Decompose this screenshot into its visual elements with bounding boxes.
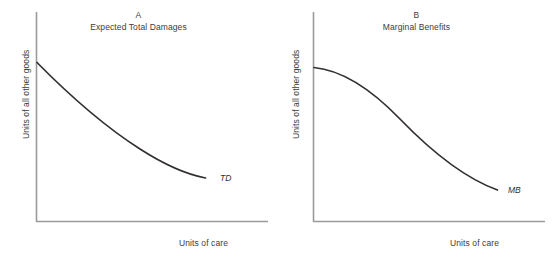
panel-b-plot-area [278,0,555,263]
panel-b-curve-label-mb: MB [508,185,521,195]
panel-a-plot-area [0,0,277,263]
panel-a: A Expected Total Damages Units of all ot… [0,0,277,263]
panel-b-curve-mb [314,68,498,191]
panel-a-curve-td [37,63,206,179]
panel-b: B Marginal Benefits Units of all other g… [278,0,555,263]
panel-a-curve-label-td: TD [220,173,231,183]
figure-two-panel-chart: A Expected Total Damages Units of all ot… [0,0,555,263]
